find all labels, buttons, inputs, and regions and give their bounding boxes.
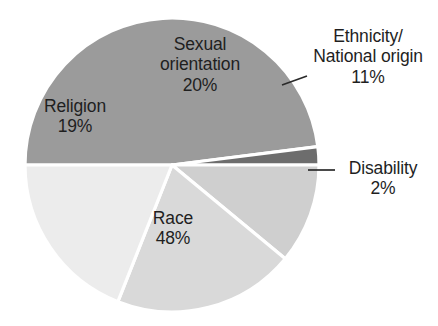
slice-label-disability-value: 2% <box>330 178 436 198</box>
slice-label-sexual-orientation-value: 20% <box>130 75 270 95</box>
slice-label-disability: Disability 2% <box>330 158 436 199</box>
slice-label-ethnicity: Ethnicity/ National origin 11% <box>300 26 436 87</box>
slice-label-religion: Religion 19% <box>16 96 134 137</box>
slice-label-sexual-orientation: Sexual orientation 20% <box>130 34 270 95</box>
slice-label-race-value: 48% <box>112 228 234 248</box>
slice-label-race-name: Race <box>112 208 234 228</box>
slice-label-disability-name: Disability <box>330 158 436 178</box>
slice-label-sexual-orientation-name: Sexual orientation <box>130 34 270 75</box>
slice-label-ethnicity-name: Ethnicity/ National origin <box>300 26 436 67</box>
slice-label-religion-name: Religion <box>16 96 134 116</box>
slice-label-race: Race 48% <box>112 208 234 249</box>
slice-label-ethnicity-value: 11% <box>300 67 436 87</box>
slice-label-religion-value: 19% <box>16 116 134 136</box>
pie-chart: Religion 19% Sexual orientation 20% Ethn… <box>0 0 438 326</box>
